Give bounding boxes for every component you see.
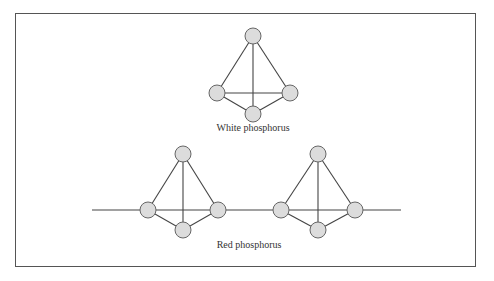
phosphorus-atom-top	[245, 28, 261, 44]
phosphorus-atom-left	[209, 85, 225, 101]
unit1-phosphorus-atom-left	[140, 202, 156, 218]
phosphorus-atom-bottom	[245, 106, 261, 122]
white-phosphorus-tetrahedron	[209, 28, 298, 122]
unit2-bond-top-right	[318, 154, 355, 210]
unit1-bond-top-left	[148, 154, 183, 210]
unit2-phosphorus-atom-left	[273, 202, 289, 218]
unit2-phosphorus-atom-bottom	[310, 222, 326, 238]
unit1-phosphorus-atom-bottom	[175, 222, 191, 238]
bond-top-right	[253, 36, 290, 93]
unit2-phosphorus-atom-top	[310, 146, 326, 162]
bond-top-left	[217, 36, 253, 93]
unit1-phosphorus-atom-top	[175, 146, 191, 162]
red-phosphorus-label: Red phosphorus	[217, 239, 282, 250]
white-phosphorus-label: White phosphorus	[216, 122, 289, 133]
unit2-bond-top-left	[281, 154, 318, 210]
unit1-phosphorus-atom-right	[210, 202, 226, 218]
unit1-bond-top-right	[183, 154, 218, 210]
red-phosphorus-chain	[92, 146, 401, 238]
phosphorus-atom-right	[282, 85, 298, 101]
unit2-phosphorus-atom-right	[347, 202, 363, 218]
